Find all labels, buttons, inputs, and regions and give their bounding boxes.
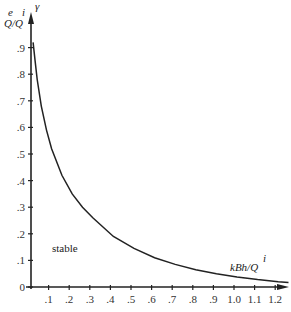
x-tick-label: .4 xyxy=(106,293,115,305)
x-tick-label: .6 xyxy=(147,293,156,305)
y-tick-label: .7 xyxy=(17,95,26,107)
y-tick-label: .6 xyxy=(17,121,26,133)
y-tick-label: 0 xyxy=(20,281,26,293)
x-tick-label: .1 xyxy=(44,293,52,305)
y-tick-label: .3 xyxy=(17,201,26,213)
x-tick-label: 1.0 xyxy=(227,293,241,305)
x-tick-label: .3 xyxy=(86,293,95,305)
gamma-label: γ xyxy=(35,0,40,12)
x-axis-arrow-icon xyxy=(277,284,289,290)
y-tick-label: .2 xyxy=(17,228,25,240)
stability-chart: 0.1.2.3.4.5.6.7.8.9 .1.2.3.4.5.6.7.8.91.… xyxy=(0,0,291,312)
x-tick-label: .5 xyxy=(127,293,136,305)
stable-region-label: stable xyxy=(52,242,78,254)
y-axis-arrow-icon xyxy=(28,12,34,24)
x-tick-label: .2 xyxy=(65,293,73,305)
x-ticks: .1.2.3.4.5.6.7.8.91.01.11.2 xyxy=(44,285,282,305)
y-axis-label: Q/Q xyxy=(4,17,23,29)
y-tick-label: .9 xyxy=(17,42,26,54)
x-tick-label: 1.2 xyxy=(268,293,282,305)
y-tick-label: .1 xyxy=(17,254,25,266)
x-tick-label: 1.1 xyxy=(248,293,262,305)
x-tick-label: .7 xyxy=(168,293,177,305)
x-tick-label: .9 xyxy=(209,293,218,305)
y-tick-label: .5 xyxy=(17,148,26,160)
y-tick-label: .4 xyxy=(17,175,26,187)
x-axis-sup-i: i xyxy=(263,252,266,264)
x-axis-label: kBh/Q xyxy=(230,261,258,273)
x-tick-label: .8 xyxy=(189,293,198,305)
y-tick-label: .8 xyxy=(17,68,26,80)
